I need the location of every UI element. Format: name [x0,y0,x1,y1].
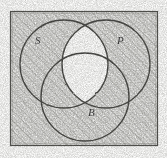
venn-diagram-figure: S P B [0,0,167,158]
set-label-b: B [88,107,95,118]
set-label-p: P [117,35,124,46]
set-label-s: S [35,35,41,46]
venn-diagram-canvas [0,0,167,158]
